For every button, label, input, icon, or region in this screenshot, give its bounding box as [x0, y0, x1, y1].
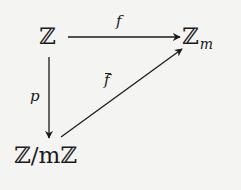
node-integers: ℤ — [39, 25, 56, 48]
label-f-text: f — [116, 12, 122, 30]
label-f-bar-text: f — [104, 73, 110, 88]
node-integers-mod-m: ℤm — [182, 25, 213, 48]
arrow-fbar — [61, 49, 182, 137]
label-f-bar: f — [104, 73, 110, 88]
node-integers-mod-m-base: ℤ — [182, 23, 199, 49]
commutative-diagram: ℤ ℤm ℤ/mℤ f p f — [0, 0, 241, 190]
node-integers-text: ℤ — [39, 23, 56, 49]
label-f: f — [116, 14, 122, 29]
node-integers-mod-m-subscript: m — [200, 36, 213, 52]
label-p: p — [30, 89, 40, 104]
node-quotient-group-text: ℤ/mℤ — [14, 142, 77, 168]
label-p-text: p — [30, 87, 40, 105]
node-quotient-group: ℤ/mℤ — [14, 144, 77, 167]
